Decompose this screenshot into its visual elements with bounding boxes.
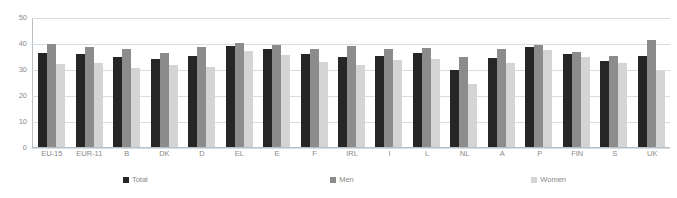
bar-men: [160, 53, 169, 147]
x-tick-label: E: [258, 150, 296, 158]
x-tick-label: EU-15: [33, 150, 71, 158]
bar-men: [647, 40, 656, 147]
bar-chart: 50403020100 EU-15EUR-11BDKDELEFIRLILNLAP…: [0, 0, 677, 198]
x-tick-label: UK: [634, 150, 672, 158]
bar-total: [188, 56, 197, 147]
bar-group: [595, 18, 632, 147]
bar-men: [272, 45, 281, 147]
y-tick-label: 0: [23, 144, 27, 152]
bar-women: [56, 64, 65, 147]
plot-area: 50403020100: [32, 18, 670, 148]
bar-men: [497, 49, 506, 147]
x-tick-label: DK: [146, 150, 184, 158]
legend-item-men: Men: [239, 176, 446, 184]
bar-total: [600, 61, 609, 147]
x-tick-label: FIN: [558, 150, 596, 158]
bar-men: [235, 43, 244, 147]
bar-group: [145, 18, 182, 147]
x-tick-label: P: [521, 150, 559, 158]
bar-total: [301, 54, 310, 147]
bar-total: [450, 70, 459, 147]
bar-men: [384, 49, 393, 147]
bar-group: [183, 18, 220, 147]
bar-women: [94, 63, 103, 147]
bar-men: [122, 49, 131, 147]
bar-women: [468, 84, 477, 147]
bar-women: [506, 63, 515, 147]
x-axis-labels: EU-15EUR-11BDKDELEFIRLILNLAPFINSUK: [33, 150, 671, 158]
bar-women: [169, 65, 178, 147]
bar-men: [534, 45, 543, 147]
y-tick-label: 30: [19, 66, 27, 74]
bar-total: [113, 57, 122, 147]
bar-group: [108, 18, 145, 147]
y-tick-label: 10: [19, 118, 27, 126]
x-tick-label: S: [596, 150, 634, 158]
bar-total: [563, 54, 572, 147]
legend-swatch-men-icon: [330, 177, 336, 183]
bar-group: [483, 18, 520, 147]
bar-women: [618, 63, 627, 147]
bar-men: [47, 44, 56, 147]
bar-total: [638, 56, 647, 147]
bar-total: [488, 58, 497, 147]
bar-group: [33, 18, 70, 147]
bar-women: [543, 50, 552, 147]
bar-group: [333, 18, 370, 147]
x-tick-label: IRL: [333, 150, 371, 158]
bar-men: [459, 57, 468, 147]
bar-men: [347, 46, 356, 147]
bar-total: [338, 57, 347, 147]
bar-total: [151, 59, 160, 147]
x-tick-label: L: [408, 150, 446, 158]
x-tick-label: D: [183, 150, 221, 158]
bar-group: [370, 18, 407, 147]
x-tick-label: B: [108, 150, 146, 158]
bar-group: [445, 18, 482, 147]
bar-group: [258, 18, 295, 147]
bar-total: [76, 54, 85, 147]
x-tick-label: EL: [221, 150, 259, 158]
bar-women: [393, 60, 402, 147]
chart-legend: Total Men Women: [32, 176, 652, 184]
bar-women: [431, 59, 440, 147]
bar-men: [197, 47, 206, 147]
bar-total: [413, 53, 422, 147]
x-tick-label: A: [483, 150, 521, 158]
bar-group: [633, 18, 670, 147]
bar-men: [310, 49, 319, 147]
bar-groups: [33, 18, 670, 147]
legend-swatch-total-icon: [123, 177, 129, 183]
bar-total: [38, 53, 47, 147]
bar-women: [581, 57, 590, 147]
bar-men: [572, 52, 581, 147]
bar-group: [520, 18, 557, 147]
legend-label-men: Men: [339, 176, 354, 184]
bar-women: [131, 68, 140, 147]
x-tick-label: NL: [446, 150, 484, 158]
bar-group: [70, 18, 107, 147]
bar-group: [558, 18, 595, 147]
y-tick-label: 20: [19, 92, 27, 100]
bar-women: [281, 55, 290, 147]
y-tick-label: 50: [19, 14, 27, 22]
bar-group: [295, 18, 332, 147]
bar-group: [220, 18, 257, 147]
bar-total: [226, 46, 235, 147]
x-tick-label: I: [371, 150, 409, 158]
bar-total: [375, 56, 384, 147]
legend-swatch-women-icon: [531, 177, 537, 183]
legend-label-women: Women: [540, 176, 566, 184]
bar-men: [85, 47, 94, 147]
bar-women: [206, 67, 215, 147]
legend-item-total: Total: [32, 176, 239, 184]
legend-label-total: Total: [132, 176, 148, 184]
bar-women: [656, 71, 665, 147]
bar-total: [263, 49, 272, 147]
bar-women: [244, 51, 253, 147]
bar-men: [422, 48, 431, 147]
bar-group: [408, 18, 445, 147]
bar-total: [525, 47, 534, 147]
x-tick-label: EUR-11: [71, 150, 109, 158]
legend-item-women: Women: [445, 176, 652, 184]
